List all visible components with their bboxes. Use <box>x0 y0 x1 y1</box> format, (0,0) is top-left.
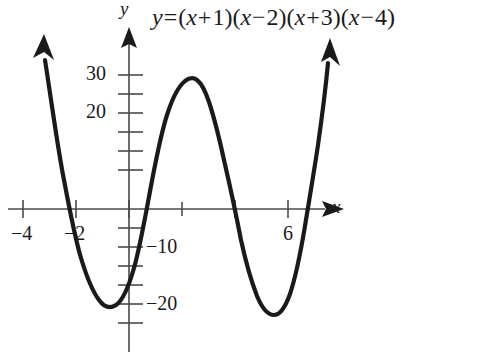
y-axis-ticks <box>118 75 143 323</box>
coordinate-plot <box>0 0 478 356</box>
y-axis <box>118 27 143 352</box>
quartic-curve-path <box>45 60 328 315</box>
function-curve <box>33 34 340 315</box>
x-axis-arrowhead <box>322 201 344 217</box>
curve-right-arrowhead <box>321 38 340 66</box>
x-axis <box>8 200 344 218</box>
curve-left-arrowhead <box>33 34 54 60</box>
graph-figure: y=(x+1)(x−2)(x+3)(x−4) y x 30 20 −10 −20… <box>0 0 478 356</box>
